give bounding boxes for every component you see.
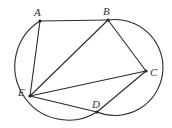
- segment-AB: [40, 20, 108, 21]
- label-A: A: [33, 6, 41, 18]
- point-B: [106, 18, 109, 21]
- label-C: C: [150, 66, 158, 78]
- segment-CE: [30, 71, 146, 96]
- segment-BC: [108, 20, 146, 71]
- geometry-diagram: A B C D E: [0, 0, 172, 128]
- label-D: D: [91, 98, 100, 110]
- point-A: [38, 19, 41, 22]
- label-B: B: [103, 5, 110, 17]
- point-E: [28, 94, 31, 97]
- segment-BE: [30, 20, 108, 96]
- point-C: [144, 69, 147, 72]
- label-E: E: [17, 86, 25, 98]
- segment-CD: [97, 71, 146, 112]
- segment-ED: [30, 96, 97, 112]
- point-D: [95, 110, 98, 113]
- segment-AE: [30, 21, 40, 96]
